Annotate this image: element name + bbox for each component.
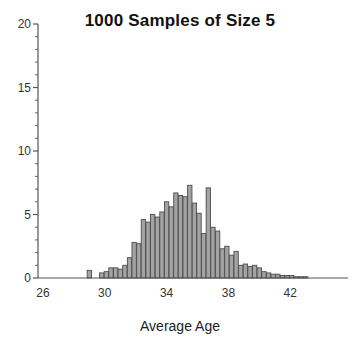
y-axis-tick-label: 20 [18, 17, 32, 31]
histogram-bar [211, 227, 215, 278]
histogram-bar [183, 197, 187, 278]
histogram-bar [109, 268, 113, 278]
histogram-bar [197, 213, 201, 278]
x-axis-title: Average Age [0, 318, 360, 334]
histogram-bar [169, 207, 173, 278]
histogram-bar [151, 215, 155, 279]
histogram-bar [113, 268, 117, 278]
histogram-bar [243, 264, 247, 278]
histogram-bar [239, 265, 243, 278]
histogram-bar [118, 269, 122, 278]
histogram-bar [174, 193, 178, 278]
y-axis-tick-label: 0 [24, 271, 31, 285]
y-axis-tick-label: 10 [18, 144, 32, 158]
histogram-bar [164, 202, 168, 278]
histogram-bar [220, 249, 224, 278]
histogram-bar [229, 255, 233, 278]
histogram-bar [266, 273, 270, 278]
y-axis-tick-label: 15 [18, 81, 32, 95]
plot-area: 051015202630343842 [0, 0, 360, 350]
histogram-bar [123, 265, 127, 278]
x-axis-tick-label: 34 [160, 286, 174, 300]
histogram-bar [100, 273, 104, 278]
histogram-bar [146, 222, 150, 278]
histogram-bar [132, 242, 136, 278]
histogram-bar [206, 188, 210, 278]
histogram-bar [202, 234, 206, 278]
histogram-bar [188, 185, 192, 278]
x-axis-tick-label: 42 [284, 286, 298, 300]
histogram-bar [253, 265, 257, 278]
histogram-bar [155, 217, 159, 278]
bars-group [87, 185, 308, 278]
histogram-bar [141, 220, 145, 278]
histogram-bar [160, 212, 164, 278]
histogram-bar [104, 272, 108, 278]
histogram-figure: 1000 Samples of Size 5 05101520263034384… [0, 0, 360, 350]
histogram-bar [215, 231, 219, 278]
histogram-bar [248, 267, 252, 278]
histogram-bar [87, 270, 91, 278]
histogram-bar [257, 268, 261, 278]
histogram-bar [262, 272, 266, 278]
histogram-bar [137, 244, 141, 278]
histogram-bar [234, 251, 238, 278]
histogram-bar [178, 195, 182, 278]
histogram-bar [192, 203, 196, 278]
x-axis-tick-label: 26 [36, 286, 50, 300]
y-axis-tick-label: 5 [24, 208, 31, 222]
x-axis-tick-label: 30 [98, 286, 112, 300]
x-axis-tick-label: 38 [222, 286, 236, 300]
histogram-bar [127, 258, 131, 278]
histogram-bar [225, 246, 229, 278]
